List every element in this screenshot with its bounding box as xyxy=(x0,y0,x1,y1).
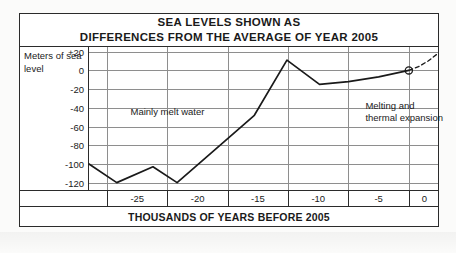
x-axis-tick-label: 0 xyxy=(404,191,444,207)
y-axis-tick-label: +20 xyxy=(68,46,84,57)
x-axis-tick-label: -20 xyxy=(178,191,218,207)
page-background: SEA LEVELS SHOWN AS DIFFERENCES FROM THE… xyxy=(0,0,456,253)
y-axis-tick-label: -80 xyxy=(70,140,84,151)
x-axis-tick-divider xyxy=(167,191,168,207)
x-axis-tick-divider xyxy=(288,191,289,207)
y-axis-tick-label: 0 xyxy=(79,65,84,76)
x-axis-tick-label: -15 xyxy=(238,191,278,207)
x-axis-tick-band: -25-20-15-10-50 xyxy=(20,190,438,206)
page-shadow xyxy=(0,232,456,253)
y-axis-label-column: Meters of sea level +200-20-40-60-80-100… xyxy=(20,47,89,190)
x-axis-tick-label: -5 xyxy=(359,191,399,207)
x-axis-tick-divider xyxy=(348,191,349,207)
chart-title-line-1: SEA LEVELS SHOWN AS xyxy=(158,15,301,30)
data-series-layer xyxy=(89,47,456,192)
chart-title-line-2: DIFFERENCES FROM THE AVERAGE OF YEAR 200… xyxy=(80,30,378,45)
x-axis-title: THOUSANDS OF YEARS BEFORE 2005 xyxy=(20,206,438,226)
observed-sea-level-line xyxy=(89,60,409,183)
y-axis-tick-label: -120 xyxy=(65,177,84,188)
x-axis-tick-label: -25 xyxy=(117,191,157,207)
chart-frame: SEA LEVELS SHOWN AS DIFFERENCES FROM THE… xyxy=(19,13,439,227)
projected-sea-level-line xyxy=(409,54,438,71)
y-axis-title-line-2: level xyxy=(24,63,44,74)
chart-body: Meters of sea level +200-20-40-60-80-100… xyxy=(20,47,438,190)
plot-area: Mainly melt water Melting and thermal ex… xyxy=(89,47,438,190)
x-axis-title-text: THOUSANDS OF YEARS BEFORE 2005 xyxy=(128,211,330,223)
y-axis-tick-label: -60 xyxy=(70,121,84,132)
y-axis-tick-label: -100 xyxy=(65,158,84,169)
x-axis-tick-divider xyxy=(228,191,229,207)
chart-title: SEA LEVELS SHOWN AS DIFFERENCES FROM THE… xyxy=(20,14,438,47)
x-axis-tick-label: -10 xyxy=(298,191,338,207)
y-axis-tick-label: -20 xyxy=(70,84,84,95)
x-axis-tick-divider xyxy=(107,191,108,207)
y-axis-tick-label: -40 xyxy=(70,102,84,113)
